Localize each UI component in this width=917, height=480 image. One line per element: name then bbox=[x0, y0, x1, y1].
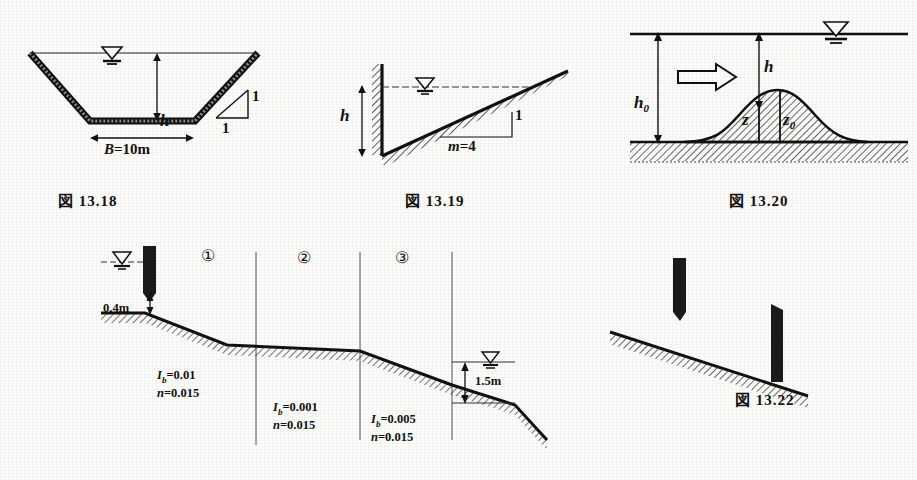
water-surface-triangle-icon bbox=[416, 78, 434, 94]
reach-marker-2: ② bbox=[297, 248, 311, 267]
figure-13-21: ① ② ③ 0.4m 1.5m Ib=0.01 n=0.015 Ib=0.001… bbox=[95, 240, 555, 470]
reach-2-slope-value: 0.001 bbox=[290, 400, 318, 414]
label-hump-depth: h bbox=[764, 57, 773, 76]
label-slope-horizontal: 1 bbox=[222, 120, 230, 137]
label-slope-vertical: 1 bbox=[515, 107, 523, 124]
figure-13-22-drawing bbox=[610, 248, 900, 408]
water-surface-triangle-icon bbox=[102, 47, 122, 64]
reach-3-roughness-value: 0.015 bbox=[385, 430, 413, 444]
caption-figure-13-19: 図 13.19 bbox=[405, 189, 465, 210]
textbook-figure-page: h B=10m 1 1 図 13.18 bbox=[0, 0, 917, 480]
label-slope-vertical: 1 bbox=[252, 88, 260, 105]
tailwater-depth-dimension bbox=[461, 362, 468, 404]
label-gate-opening: 0.4m bbox=[103, 301, 129, 316]
figure-13-20: h0 h z z0 bbox=[612, 14, 912, 179]
reach-3-slope-value: 0.005 bbox=[388, 412, 416, 426]
reach-2-roughness-value: 0.015 bbox=[287, 418, 315, 432]
downstream-sill bbox=[771, 304, 783, 382]
label-slope-ratio: m=4 bbox=[448, 138, 476, 155]
flow-direction-arrow-icon bbox=[678, 64, 736, 90]
reach-1-roughness-value: 0.015 bbox=[171, 386, 199, 400]
label-bottom-width: B=10m bbox=[104, 141, 150, 158]
label-upstream-depth: h0 bbox=[634, 93, 649, 115]
bed-ground-hatch bbox=[630, 143, 908, 161]
water-surface-triangle-icon bbox=[824, 22, 848, 43]
reach-2-parameters: Ib=0.001 n=0.015 bbox=[273, 400, 318, 433]
depth-dimension-h bbox=[358, 85, 366, 157]
reach-1-parameters: Ib=0.01 n=0.015 bbox=[157, 368, 199, 401]
figure-13-21-drawing bbox=[95, 240, 555, 470]
label-depth-h: h bbox=[340, 106, 349, 125]
reach-1-slope-value: 0.01 bbox=[174, 368, 196, 382]
bed-ground-hatch bbox=[382, 72, 572, 165]
caption-figure-13-22: 図 13.22 bbox=[735, 388, 795, 409]
reach-marker-1: ① bbox=[201, 246, 215, 265]
tailwater-triangle-icon bbox=[482, 352, 499, 368]
figure-13-20-drawing bbox=[612, 14, 912, 179]
bed-hump bbox=[684, 90, 868, 142]
caption-figure-13-20: 図 13.20 bbox=[729, 189, 789, 210]
sluice-gate bbox=[673, 258, 686, 321]
figure-13-19: h 1 m=4 bbox=[300, 50, 580, 180]
figure-13-22 bbox=[610, 248, 900, 408]
water-surface-triangle-icon bbox=[113, 252, 131, 269]
label-hump-height-z: z bbox=[742, 110, 749, 129]
label-hump-height-z0: z0 bbox=[783, 110, 795, 132]
reach-3-parameters: Ib=0.005 n=0.015 bbox=[371, 412, 416, 445]
sluice-gate bbox=[143, 246, 156, 302]
label-tailwater-depth: 1.5m bbox=[475, 374, 501, 389]
reach-marker-3: ③ bbox=[395, 248, 409, 267]
label-depth-h: h bbox=[160, 111, 169, 130]
upstream-depth-dimension bbox=[654, 32, 662, 144]
figure-13-18: h B=10m 1 1 bbox=[0, 28, 300, 178]
caption-figure-13-18: 図 13.18 bbox=[58, 189, 118, 210]
